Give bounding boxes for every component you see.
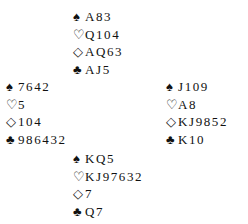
east-spades: ♠J109 <box>166 78 228 96</box>
club-icon: ♣ <box>166 131 178 149</box>
club-icon: ♣ <box>73 61 85 79</box>
spade-icon: ♠ <box>73 150 85 168</box>
east-diamonds: ◇KJ9852 <box>166 113 228 131</box>
north-hand: ♠A83 ♡Q104 ◇AQ63 ♣AJ5 <box>73 8 123 78</box>
spade-icon: ♠ <box>6 78 18 96</box>
west-hand: ♠7642 ♡5 ◇104 ♣986432 <box>6 78 67 148</box>
south-hand: ♠KQ5 ♡KJ97632 ◇7 ♣Q7 <box>73 150 143 220</box>
north-clubs: ♣AJ5 <box>73 61 123 79</box>
spade-icon: ♠ <box>73 8 85 26</box>
west-hearts: ♡5 <box>6 96 67 114</box>
north-spades: ♠A83 <box>73 8 123 26</box>
south-clubs: ♣Q7 <box>73 203 143 221</box>
diamond-icon: ◇ <box>73 43 85 61</box>
east-clubs: ♣K10 <box>166 131 228 149</box>
north-diamonds: ◇AQ63 <box>73 43 123 61</box>
heart-icon: ♡ <box>73 26 85 44</box>
diamond-icon: ◇ <box>6 113 18 131</box>
heart-icon: ♡ <box>6 96 18 114</box>
spade-icon: ♠ <box>166 78 178 96</box>
club-icon: ♣ <box>6 131 18 149</box>
heart-icon: ♡ <box>73 168 85 186</box>
heart-icon: ♡ <box>166 96 178 114</box>
east-hearts: ♡A8 <box>166 96 228 114</box>
club-icon: ♣ <box>73 203 85 221</box>
south-spades: ♠KQ5 <box>73 150 143 168</box>
north-hearts: ♡Q104 <box>73 26 123 44</box>
west-spades: ♠7642 <box>6 78 67 96</box>
diamond-icon: ◇ <box>166 113 178 131</box>
west-diamonds: ◇104 <box>6 113 67 131</box>
diamond-icon: ◇ <box>73 185 85 203</box>
south-diamonds: ◇7 <box>73 185 143 203</box>
east-hand: ♠J109 ♡A8 ◇KJ9852 ♣K10 <box>166 78 228 148</box>
west-clubs: ♣986432 <box>6 131 67 149</box>
south-hearts: ♡KJ97632 <box>73 168 143 186</box>
